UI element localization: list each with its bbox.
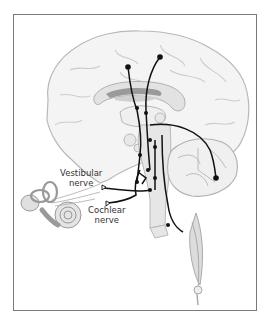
cochlear-nerve-text: nerve	[88, 215, 126, 225]
brain-diagram	[0, 0, 267, 320]
vestibular-nerve-text: nerve	[60, 178, 102, 188]
cochlear-text: Cochlear	[88, 205, 126, 215]
eye-muscle	[190, 213, 203, 305]
cerebellum	[168, 139, 238, 197]
vestibular-text: Vestibular	[60, 168, 102, 178]
vestibular-nerve-label: Vestibular nerve	[60, 168, 102, 188]
cochlear-nerve-label: Cochlear nerve	[88, 205, 126, 225]
